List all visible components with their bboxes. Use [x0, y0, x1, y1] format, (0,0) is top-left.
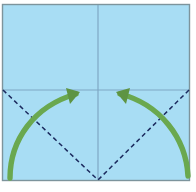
fold-diagram-canvas — [0, 0, 196, 192]
origami-diagram — [0, 0, 196, 192]
square-paper-sheet — [3, 5, 190, 181]
